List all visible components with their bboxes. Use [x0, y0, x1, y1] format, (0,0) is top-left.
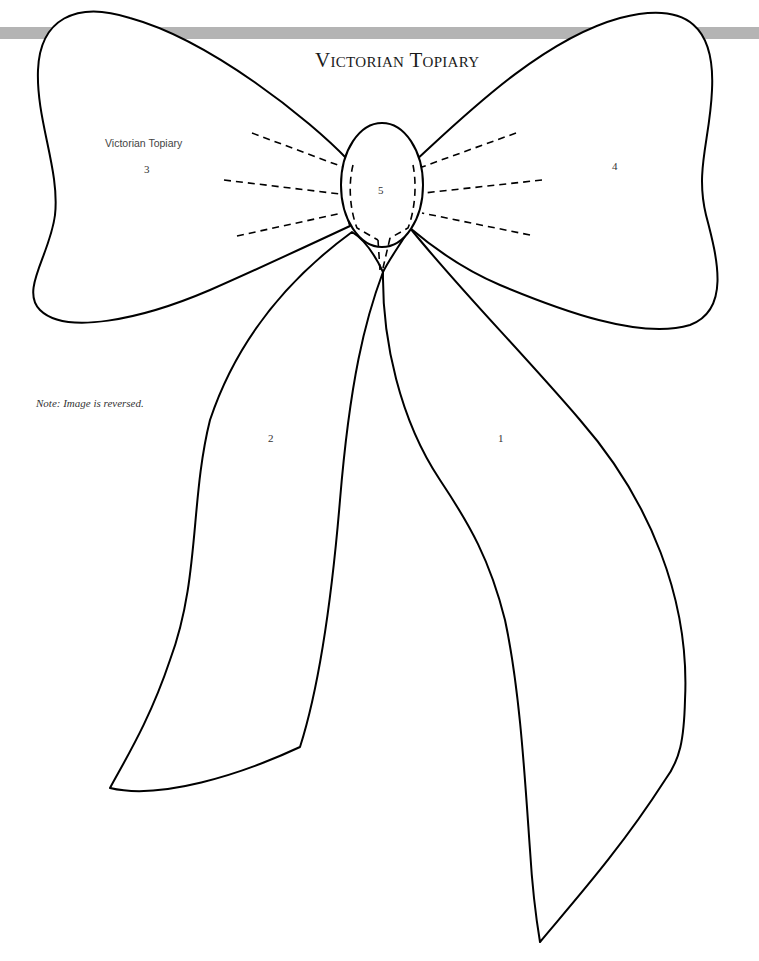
- piece-4-number: 4: [612, 160, 618, 172]
- reversed-note: Note: Image is reversed.: [36, 397, 144, 409]
- piece-5-number: 5: [378, 184, 384, 196]
- piece-3-caption: Victorian Topiary: [105, 137, 182, 149]
- piece-1-right-streamer: [383, 228, 685, 942]
- page-title: Victorian Topiary: [315, 48, 479, 73]
- piece-1-number: 1: [498, 432, 504, 444]
- piece-3-number: 3: [144, 163, 150, 175]
- piece-2-number: 2: [268, 432, 274, 444]
- piece-2-left-streamer: [110, 232, 383, 791]
